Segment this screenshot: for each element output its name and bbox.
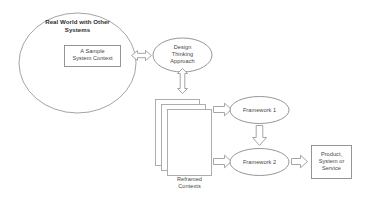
arrow-right-to-framework-two-icon: [214, 155, 232, 168]
double-arrow-vertical-icon: [178, 69, 188, 94]
arrow-right-to-framework-one-icon: [214, 103, 232, 116]
system-context-box-shape: [65, 46, 121, 67]
framework-one-ellipse-shape: [230, 97, 289, 124]
framework-two-ellipse-shape: [230, 149, 289, 176]
diagram-canvas: Real World with Other Systems A Sample S…: [0, 0, 368, 199]
product-output-box-shape: [312, 146, 352, 179]
arrow-down-to-framework-two-icon: [253, 126, 267, 146]
arrow-right-to-product-icon: [292, 155, 308, 168]
design-thinking-ellipse-shape: [153, 38, 212, 72]
diagram-shapes: [0, 0, 368, 199]
reframed-context-layer-front: [168, 110, 212, 176]
